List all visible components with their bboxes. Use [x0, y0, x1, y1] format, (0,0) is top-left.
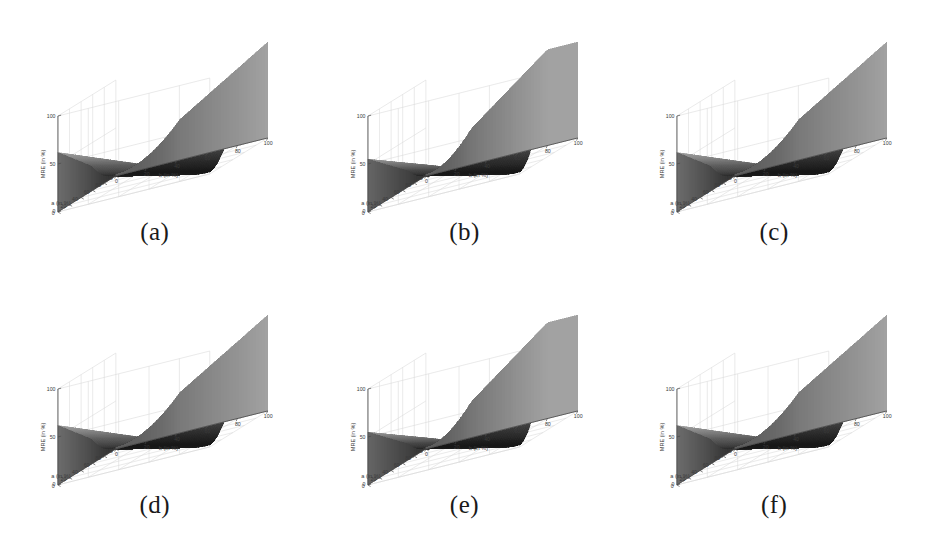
panel-d: 050100MRE (in %)020406080100a (in %)0204… [0, 273, 310, 546]
z-tick-label: 100 [47, 386, 56, 392]
y-tick-label: 20 [144, 171, 150, 177]
x-tick-label: 100 [723, 175, 732, 181]
surface-plot-e: 050100MRE (in %)020406080100a (in %)0204… [310, 279, 620, 491]
y-tick-label: 20 [763, 171, 769, 177]
y-tick-label: 0 [425, 451, 428, 457]
x-tick-label: 60 [393, 462, 399, 468]
x-tick-label: 60 [393, 189, 399, 195]
x-tick-label: 0 [671, 210, 674, 216]
surface-plot-b: 050100MRE (in %)020406080100a (in %)0204… [310, 6, 620, 218]
y-tick-label: 40 [794, 163, 800, 169]
y-axis-label: b (in %) [778, 172, 797, 178]
y-axis-label: b (in %) [159, 445, 178, 451]
x-tick-label: 0 [362, 483, 365, 489]
y-tick-label: 40 [484, 163, 490, 169]
z-tick-label: 100 [666, 113, 675, 119]
x-tick-label: 0 [52, 210, 55, 216]
x-tick-label: 80 [405, 182, 411, 188]
z-tick-label: 50 [359, 161, 365, 167]
y-tick-label: 100 [574, 413, 583, 419]
x-tick-label: 100 [723, 448, 732, 454]
y-tick-label: 0 [425, 178, 428, 184]
panel-caption-c: (c) [619, 218, 929, 246]
y-tick-label: 80 [545, 148, 551, 154]
z-tick-label: 100 [666, 386, 675, 392]
y-tick-label: 100 [574, 140, 583, 146]
x-tick-label: 0 [362, 210, 365, 216]
x-tick-label: 60 [84, 189, 90, 195]
x-tick-label: 60 [703, 189, 709, 195]
x-tick-label: 40 [72, 469, 78, 475]
y-tick-label: 40 [174, 436, 180, 442]
y-axis-label: b (in %) [469, 172, 488, 178]
y-tick-label: 0 [115, 178, 118, 184]
x-tick-label: 100 [104, 175, 113, 181]
x-tick-label: 40 [72, 196, 78, 202]
y-tick-label: 60 [824, 428, 830, 434]
x-tick-label: 40 [382, 196, 388, 202]
y-tick-label: 80 [545, 421, 551, 427]
x-axis-label: a (in %) [361, 473, 380, 479]
x-tick-label: 100 [414, 175, 423, 181]
x-tick-label: 80 [95, 182, 101, 188]
x-tick-label: 40 [691, 196, 697, 202]
figure-six-surface-plots: 050100MRE (in %)020406080100a (in %)0204… [0, 0, 929, 546]
y-tick-label: 100 [883, 413, 892, 419]
x-axis-label: a (in %) [671, 473, 690, 479]
y-tick-label: 20 [763, 444, 769, 450]
panel-b: 050100MRE (in %)020406080100a (in %)0204… [310, 0, 620, 273]
panel-caption-a: (a) [0, 218, 310, 246]
y-tick-label: 60 [514, 428, 520, 434]
z-axis-label: MRE (in %) [40, 423, 46, 452]
x-axis-label: a (in %) [361, 200, 380, 206]
z-tick-label: 50 [669, 434, 675, 440]
y-tick-label: 100 [264, 140, 273, 146]
x-tick-label: 60 [84, 462, 90, 468]
x-tick-label: 100 [414, 448, 423, 454]
y-tick-label: 40 [484, 436, 490, 442]
x-tick-label: 80 [95, 455, 101, 461]
z-tick-label: 100 [47, 113, 56, 119]
y-tick-label: 60 [205, 428, 211, 434]
y-tick-label: 60 [205, 155, 211, 161]
y-axis-label: b (in %) [469, 445, 488, 451]
z-tick-label: 100 [356, 386, 365, 392]
y-tick-label: 40 [174, 163, 180, 169]
panel-caption-d: (d) [0, 491, 310, 519]
panel-caption-f: (f) [619, 491, 929, 519]
y-tick-label: 60 [824, 155, 830, 161]
z-axis-label: MRE (in %) [350, 423, 356, 452]
y-axis-label: b (in %) [778, 445, 797, 451]
x-axis-label: a (in %) [51, 200, 70, 206]
panel-caption-e: (e) [310, 491, 620, 519]
x-tick-label: 80 [715, 455, 721, 461]
y-tick-label: 80 [235, 148, 241, 154]
z-tick-label: 50 [669, 161, 675, 167]
y-tick-label: 80 [235, 421, 241, 427]
x-tick-label: 60 [703, 462, 709, 468]
surface-skirt [677, 42, 887, 212]
z-tick-label: 50 [50, 161, 56, 167]
surface-skirt [368, 315, 578, 485]
y-tick-label: 60 [514, 155, 520, 161]
y-tick-label: 0 [115, 451, 118, 457]
panel-grid: 050100MRE (in %)020406080100a (in %)0204… [0, 0, 929, 546]
surface-skirt [58, 315, 268, 485]
y-tick-label: 100 [264, 413, 273, 419]
z-tick-label: 50 [359, 434, 365, 440]
x-tick-label: 80 [715, 182, 721, 188]
y-tick-label: 20 [144, 444, 150, 450]
z-tick-label: 100 [356, 113, 365, 119]
y-tick-label: 80 [854, 421, 860, 427]
x-tick-label: 40 [382, 469, 388, 475]
surface-plot-f: 050100MRE (in %)020406080100a (in %)0204… [619, 279, 929, 491]
y-tick-label: 40 [794, 436, 800, 442]
surface-plot-d: 050100MRE (in %)020406080100a (in %)0204… [0, 279, 310, 491]
y-tick-label: 0 [734, 178, 737, 184]
surface-plot-a: 050100MRE (in %)020406080100a (in %)0204… [0, 6, 310, 218]
panel-f: 050100MRE (in %)020406080100a (in %)0204… [619, 273, 929, 546]
z-axis-label: MRE (in %) [659, 423, 665, 452]
x-tick-label: 0 [671, 483, 674, 489]
y-tick-label: 0 [734, 451, 737, 457]
z-axis-label: MRE (in %) [659, 150, 665, 179]
